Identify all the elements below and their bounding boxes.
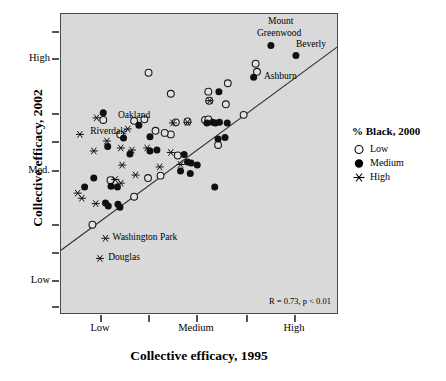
data-point — [116, 204, 123, 211]
data-point — [161, 129, 168, 136]
data-point — [224, 119, 231, 126]
y-tick-3 — [52, 141, 59, 143]
data-point — [100, 109, 107, 116]
data-point — [132, 172, 140, 179]
data-point — [222, 101, 229, 108]
data-point — [118, 162, 126, 169]
point-label: Greenwood — [257, 28, 301, 39]
data-point — [205, 88, 212, 95]
point-label: Mount — [268, 16, 293, 27]
data-point — [267, 42, 274, 49]
data-point — [187, 170, 194, 177]
data-point — [292, 52, 299, 59]
y-tick-1 — [52, 58, 59, 60]
data-point — [188, 159, 195, 166]
data-point — [108, 183, 115, 190]
data-point — [224, 80, 231, 87]
data-point — [250, 74, 257, 81]
x-tick-1 — [148, 315, 150, 322]
y-tick-4 — [52, 170, 59, 172]
data-point — [194, 162, 201, 169]
data-point — [222, 134, 229, 141]
legend-label-medium: Medium — [370, 157, 404, 168]
data-point — [76, 131, 84, 138]
data-point — [101, 235, 109, 242]
y-tick-8 — [52, 306, 59, 308]
chart-root: Collective efficacy, 2002 Collective eff… — [0, 0, 446, 381]
data-point — [135, 122, 142, 129]
x-tick-4 — [294, 315, 296, 322]
legend-label-high: High — [370, 171, 390, 182]
x-tick-label-medium: Medium — [178, 322, 214, 333]
data-point — [152, 127, 159, 134]
data-point — [153, 147, 160, 154]
y-tick-label-low: Low — [31, 274, 50, 285]
data-point — [174, 152, 181, 159]
data-layer — [61, 14, 338, 314]
legend-label-low: Low — [370, 143, 388, 154]
data-point — [215, 88, 222, 95]
data-point — [212, 119, 219, 126]
data-point — [252, 60, 259, 67]
data-point — [167, 90, 174, 97]
data-point — [78, 195, 86, 202]
legend-item-high[interactable]: High — [352, 170, 444, 183]
x-tick-2 — [196, 315, 198, 322]
y-tick-2 — [52, 113, 59, 115]
data-point — [104, 143, 111, 150]
point-label: Riverdale — [90, 126, 127, 137]
data-point — [157, 172, 164, 179]
x-tick-label-low: Low — [90, 322, 109, 333]
data-point — [167, 149, 175, 156]
y-tick-5 — [52, 224, 59, 226]
data-point — [181, 151, 188, 158]
data-point — [156, 164, 164, 171]
data-point — [240, 111, 247, 118]
legend: % Black, 2000 Low Medium — [352, 125, 444, 184]
y-tick-7 — [52, 280, 59, 282]
data-point — [215, 135, 222, 142]
data-point — [131, 193, 138, 200]
star-icon — [352, 170, 369, 183]
legend-title: % Black, 2000 — [352, 125, 444, 137]
data-point — [145, 175, 152, 182]
data-point — [90, 148, 98, 155]
y-axis-title: Collective efficacy, 2002 — [30, 68, 46, 248]
data-point — [100, 117, 107, 124]
point-label: Ashburn — [264, 71, 297, 82]
open-circle-icon — [352, 142, 369, 155]
y-tick-0 — [52, 31, 59, 33]
data-point — [92, 200, 100, 207]
filled-circle-icon — [352, 156, 369, 169]
data-point — [215, 142, 222, 149]
point-label: Douglas — [108, 252, 140, 263]
stats-annotation: R = 0.73, p < 0.01 — [269, 296, 331, 306]
data-point — [203, 119, 210, 126]
legend-item-low[interactable]: Low — [352, 142, 444, 155]
point-label: Beverly — [296, 39, 326, 50]
x-tick-label-high: High — [284, 322, 305, 333]
y-tick-6 — [52, 252, 59, 254]
y-tick-label-high: High — [29, 52, 50, 63]
data-point — [146, 133, 153, 140]
x-tick-0 — [100, 315, 102, 322]
data-point — [105, 203, 112, 210]
data-point — [90, 175, 97, 182]
x-axis-title: Collective efficacy, 1995 — [60, 348, 338, 364]
data-point — [117, 145, 125, 152]
x-tick-3 — [246, 315, 248, 322]
data-point — [74, 190, 82, 197]
data-point — [177, 168, 184, 175]
data-point — [211, 184, 218, 191]
data-point — [81, 184, 88, 191]
point-label: Oakland — [118, 110, 150, 121]
data-point — [89, 221, 96, 228]
point-label: Washington Park — [112, 232, 177, 243]
data-point — [96, 255, 104, 262]
y-tick-label-med: Med. — [28, 164, 50, 175]
legend-item-medium[interactable]: Medium — [352, 156, 444, 169]
plot-area: MountGreenwoodBeverlyAshburnOaklandRiver… — [60, 13, 338, 314]
data-point — [145, 69, 152, 76]
